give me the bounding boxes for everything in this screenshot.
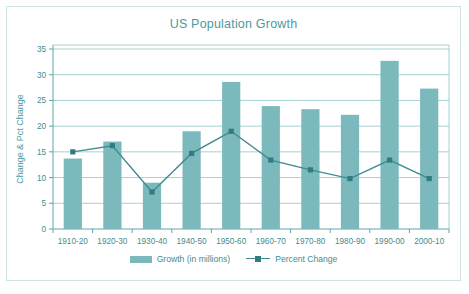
bar xyxy=(64,159,82,229)
y-axis-title: Change & Pct Change xyxy=(15,94,25,184)
x-tick-label: 1940-50 xyxy=(177,237,207,246)
line-data-point-marker xyxy=(149,189,154,194)
x-tick-label: 1980-90 xyxy=(335,237,365,246)
x-tick-label: 2000-10 xyxy=(414,237,444,246)
bar xyxy=(182,131,200,229)
x-tick-label: 1960-70 xyxy=(256,237,286,246)
x-tick-label: 1990-00 xyxy=(375,237,405,246)
bar xyxy=(420,89,438,229)
x-tick-label: 1920-30 xyxy=(97,237,127,246)
x-tick-label: 1970-80 xyxy=(295,237,325,246)
chart-plot-area: 05101520253035Change & Pct Change1910-20… xyxy=(7,7,462,282)
line-data-point-marker xyxy=(229,129,234,134)
line-data-point-marker xyxy=(308,167,313,172)
bar xyxy=(341,115,359,229)
line-data-point-marker xyxy=(189,151,194,156)
legend-line-swatch-icon xyxy=(246,255,270,263)
x-tick-label: 1930-40 xyxy=(137,237,167,246)
line-data-point-marker xyxy=(70,149,75,154)
y-tick-label: 15 xyxy=(37,148,47,157)
line-data-point-marker xyxy=(427,176,432,181)
y-tick-label: 0 xyxy=(41,225,46,234)
line-data-point-marker xyxy=(268,157,273,162)
y-tick-label: 5 xyxy=(41,199,46,208)
chart-legend: Growth (in millions) Percent Change xyxy=(7,254,460,264)
legend-item-growth: Growth (in millions) xyxy=(130,254,231,264)
line-data-point-marker xyxy=(387,157,392,162)
y-tick-label: 25 xyxy=(37,96,47,105)
bar xyxy=(380,61,398,229)
legend-bar-swatch-icon xyxy=(130,256,152,263)
chart-frame: US Population Growth 05101520253035Chang… xyxy=(6,6,461,281)
line-data-point-marker xyxy=(347,176,352,181)
percent-change-line xyxy=(73,131,429,192)
legend-item-percent-change: Percent Change xyxy=(246,254,337,264)
legend-label-growth: Growth (in millions) xyxy=(157,254,231,264)
y-tick-label: 35 xyxy=(37,45,47,54)
bar xyxy=(222,82,240,229)
legend-label-percent-change: Percent Change xyxy=(275,254,337,264)
x-tick-label: 1950-60 xyxy=(216,237,246,246)
bar xyxy=(103,142,121,229)
y-tick-label: 10 xyxy=(37,174,47,183)
x-tick-label: 1910-20 xyxy=(58,237,88,246)
line-data-point-marker xyxy=(110,143,115,148)
bar xyxy=(262,106,280,229)
y-tick-label: 20 xyxy=(37,122,47,131)
y-tick-label: 30 xyxy=(37,71,47,80)
